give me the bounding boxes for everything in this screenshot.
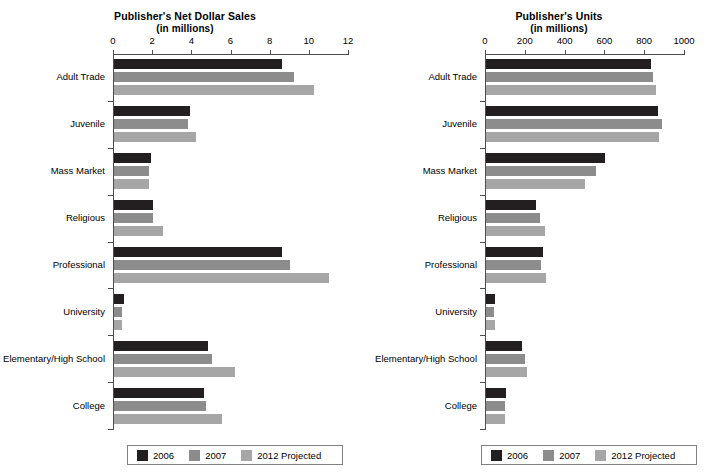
category-label: Juvenile bbox=[0, 118, 105, 129]
bar bbox=[486, 166, 596, 176]
x-axis-tick-label: 600 bbox=[596, 35, 612, 46]
bar bbox=[114, 72, 294, 82]
category-axis-tick bbox=[480, 382, 486, 383]
bar bbox=[114, 132, 196, 142]
plot-area-left: 024681012 bbox=[113, 54, 348, 429]
bar bbox=[114, 213, 153, 223]
bar bbox=[114, 414, 222, 424]
legend-swatch bbox=[241, 450, 252, 461]
category-label: University bbox=[277, 306, 477, 317]
bar bbox=[486, 247, 543, 257]
x-axis-tick-label: 1000 bbox=[673, 35, 694, 46]
bar-group bbox=[486, 388, 684, 424]
category-label: College bbox=[0, 400, 105, 411]
bar bbox=[114, 401, 206, 411]
x-axis-tick bbox=[565, 50, 566, 55]
category-label: Religious bbox=[0, 212, 105, 223]
bar bbox=[486, 367, 527, 377]
legend-label: 2006 bbox=[153, 450, 174, 461]
category-axis-tick bbox=[108, 101, 114, 102]
chart-subtitle-left: (in millions) bbox=[35, 23, 335, 36]
bar bbox=[486, 294, 495, 304]
bar bbox=[486, 401, 505, 411]
bar-group bbox=[486, 247, 684, 283]
bar bbox=[114, 294, 124, 304]
category-label: University bbox=[0, 306, 105, 317]
category-axis-tick bbox=[480, 195, 486, 196]
legend-item[interactable]: 2007 bbox=[189, 450, 226, 461]
legend-label: 2007 bbox=[559, 450, 580, 461]
x-axis-tick bbox=[348, 50, 349, 55]
bar bbox=[486, 85, 656, 95]
category-label: Elementary/High School bbox=[0, 353, 105, 364]
bar bbox=[114, 367, 235, 377]
bar bbox=[114, 85, 314, 95]
x-axis-line-right bbox=[485, 54, 684, 55]
bar bbox=[114, 179, 149, 189]
category-label: Adult Trade bbox=[0, 71, 105, 82]
legend-swatch bbox=[491, 450, 502, 461]
chart-subtitle-right: (in millions) bbox=[409, 23, 708, 36]
chart-panel-units: Publisher's Units (in millions) 02004006… bbox=[354, 0, 708, 473]
x-axis-tick bbox=[525, 50, 526, 55]
bar bbox=[114, 59, 282, 69]
category-axis-tick bbox=[108, 148, 114, 149]
category-axis-tick bbox=[480, 101, 486, 102]
bar bbox=[486, 106, 658, 116]
category-label: College bbox=[277, 400, 477, 411]
legend-item[interactable]: 2007 bbox=[543, 450, 580, 461]
category-axis-tick bbox=[108, 382, 114, 383]
x-axis-tick bbox=[113, 50, 114, 55]
chart-title-right: Publisher's Units (in millions) bbox=[409, 10, 708, 35]
bar bbox=[486, 59, 651, 69]
x-axis-tick-label: 0 bbox=[482, 35, 487, 46]
x-axis-tick bbox=[644, 50, 645, 55]
bar bbox=[486, 119, 662, 129]
bar bbox=[486, 260, 541, 270]
category-label: Religious bbox=[277, 212, 477, 223]
legend-item[interactable]: 2006 bbox=[491, 450, 528, 461]
x-axis-tick-label: 400 bbox=[557, 35, 573, 46]
x-axis-tick-label: 800 bbox=[636, 35, 652, 46]
bar-group bbox=[486, 59, 684, 95]
category-label: Juvenile bbox=[277, 118, 477, 129]
bar bbox=[114, 226, 163, 236]
x-axis-tick-label: 0 bbox=[110, 35, 115, 46]
x-axis-tick-label: 2 bbox=[150, 35, 155, 46]
x-axis-tick bbox=[604, 50, 605, 55]
category-label: Mass Market bbox=[277, 165, 477, 176]
x-axis-tick-label: 4 bbox=[189, 35, 194, 46]
x-axis-tick-label: 200 bbox=[517, 35, 533, 46]
category-axis-tick bbox=[480, 148, 486, 149]
bar bbox=[486, 273, 546, 283]
x-axis-tick bbox=[231, 50, 232, 55]
category-axis-tick bbox=[108, 429, 114, 430]
category-label: Professional bbox=[277, 259, 477, 270]
legend-item[interactable]: 2012 Projected bbox=[241, 450, 321, 461]
legend-left: 200620072012 Projected bbox=[127, 445, 343, 465]
plot-area-right: 02004006008001000 bbox=[485, 54, 684, 429]
x-axis-tick bbox=[309, 50, 310, 55]
legend-swatch bbox=[137, 450, 148, 461]
legend-label: 2006 bbox=[507, 450, 528, 461]
bar bbox=[114, 260, 290, 270]
bar bbox=[114, 153, 151, 163]
x-axis-tick-label: 12 bbox=[343, 35, 354, 46]
bar bbox=[486, 388, 506, 398]
legend-label: 2007 bbox=[205, 450, 226, 461]
x-axis-tick bbox=[485, 50, 486, 55]
x-axis-tick bbox=[152, 50, 153, 55]
category-label: Mass Market bbox=[0, 165, 105, 176]
bar bbox=[114, 247, 282, 257]
x-axis-tick bbox=[684, 50, 685, 55]
category-label: Adult Trade bbox=[277, 71, 477, 82]
bar bbox=[486, 213, 540, 223]
legend-item[interactable]: 2012 Projected bbox=[595, 450, 675, 461]
bar bbox=[114, 320, 122, 330]
bar bbox=[114, 354, 212, 364]
bar bbox=[114, 273, 329, 283]
category-label: Elementary/High School bbox=[277, 353, 477, 364]
bar bbox=[486, 341, 522, 351]
legend-item[interactable]: 2006 bbox=[137, 450, 174, 461]
category-axis-tick bbox=[480, 242, 486, 243]
